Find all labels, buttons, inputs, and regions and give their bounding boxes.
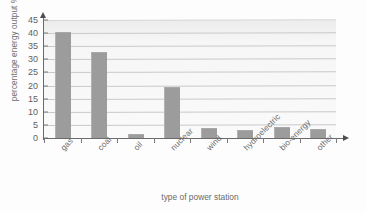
y-axis-tick-label: 25	[14, 67, 38, 77]
bar-chart: percentage energy output % 0510152025303…	[0, 0, 366, 212]
y-axis-tick-mark	[44, 33, 48, 34]
x-axis-category-label: oil	[132, 140, 144, 152]
y-axis-tick-label: 20	[14, 81, 38, 91]
y-axis-tick-mark	[44, 46, 48, 47]
x-axis-tick-mark	[44, 138, 45, 143]
y-axis-arrow-icon	[40, 12, 46, 18]
y-axis-tick-label: 35	[14, 41, 38, 51]
x-axis-arrow-icon	[343, 135, 349, 141]
x-axis-tick-mark	[154, 138, 155, 143]
x-axis-tick-mark	[190, 138, 191, 143]
x-axis-tick-mark	[300, 138, 301, 143]
y-axis-tick-label: 30	[14, 54, 38, 64]
x-axis-tick-mark	[117, 138, 118, 143]
y-axis-tick-mark	[44, 72, 48, 73]
y-axis-line	[43, 16, 44, 140]
x-axis-title: type of power station	[120, 192, 280, 202]
y-axis-tick-label: 45	[14, 15, 38, 25]
x-axis-tick-mark	[227, 138, 228, 143]
gridline	[44, 85, 336, 87]
y-axis-tick-mark	[44, 98, 48, 99]
x-axis-tick-mark	[263, 138, 264, 143]
y-axis-tick-label: 15	[14, 94, 38, 104]
x-axis-tick-mark	[81, 138, 82, 143]
y-axis-tick-label: 10	[14, 107, 38, 117]
y-axis-tick-mark	[44, 59, 48, 60]
bar	[91, 52, 107, 138]
y-axis-tick-label: 40	[14, 28, 38, 38]
y-axis-tick-mark	[44, 111, 48, 112]
y-axis-tick-mark	[44, 20, 48, 21]
x-axis-tick-mark	[336, 138, 337, 143]
y-axis-tick-mark	[44, 85, 48, 86]
gridline	[44, 98, 336, 100]
y-axis-tick-mark	[44, 124, 48, 125]
y-axis-tick-label: 5	[14, 120, 38, 130]
y-axis-tick-label: 0	[14, 133, 38, 143]
bar	[164, 87, 180, 138]
plot-background	[44, 20, 336, 138]
plot-area	[44, 20, 336, 138]
bar	[55, 32, 71, 138]
